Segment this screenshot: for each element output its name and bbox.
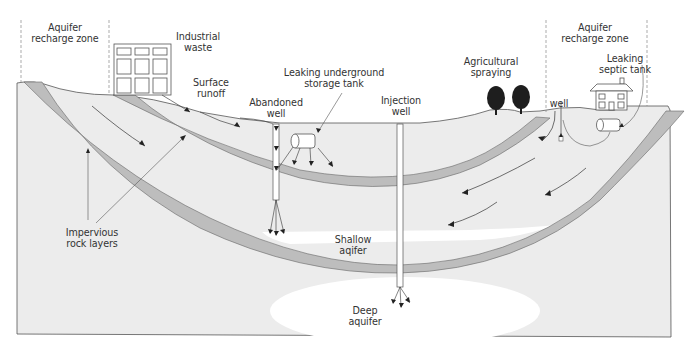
label-leaking-septic-tank: Leaking septic tank bbox=[592, 53, 658, 75]
septic-tank-icon bbox=[597, 119, 621, 131]
house-icon bbox=[590, 78, 633, 110]
label-shallow-aquifer: Shallow aqifer bbox=[325, 234, 381, 256]
label-leaking-underground-storage-tank: Leaking underground storage tank bbox=[280, 67, 388, 89]
label-aquifer-recharge-zone-left: Aquifer recharge zone bbox=[26, 22, 104, 44]
label-injection-well: Injection well bbox=[374, 95, 428, 117]
label-surface-runoff: Surface runoff bbox=[184, 77, 238, 99]
label-aquifer-recharge-zone-right: Aquifer recharge zone bbox=[555, 22, 635, 44]
label-agricultural-spraying: Agricultural spraying bbox=[454, 56, 528, 78]
label-industrial-waste: Industrial waste bbox=[168, 31, 228, 53]
label-well: well bbox=[547, 98, 571, 109]
label-impervious-rock-layers: Impervious rock layers bbox=[62, 227, 122, 249]
underground-storage-tank-icon bbox=[291, 134, 315, 148]
label-deep-aquifer: Deep aquifer bbox=[337, 305, 393, 327]
industrial-building-icon bbox=[114, 44, 171, 95]
deep-aquifer bbox=[270, 277, 540, 345]
label-abandoned-well: Abandoned well bbox=[243, 97, 309, 119]
